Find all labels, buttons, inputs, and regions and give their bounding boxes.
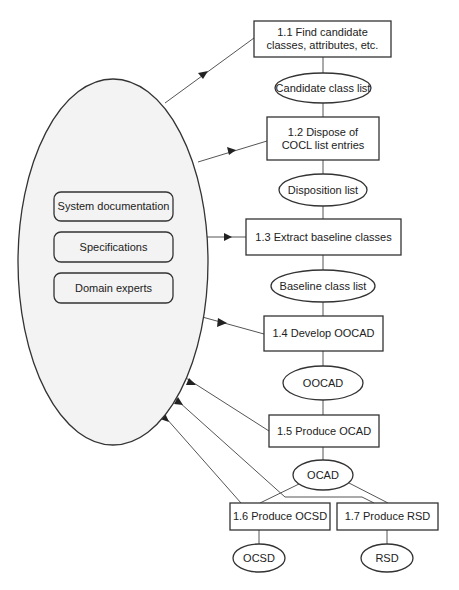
source-label-system-documentation: System documentation bbox=[54, 192, 173, 221]
process-label-1-2: 1.2 Dispose of COCL list entries bbox=[267, 117, 379, 160]
process-label-1-4: 1.4 Develop OOCAD bbox=[264, 316, 383, 351]
source-label-specifications: Specifications bbox=[54, 232, 173, 262]
process-label-1-7: 1.7 Produce RSD bbox=[337, 503, 438, 530]
artifact-label-candidate-class-list: Candidate class list bbox=[275, 73, 371, 103]
process-label-1-3: 1.3 Extract baseline classes bbox=[246, 219, 401, 255]
process-label-1-6: 1.6 Produce OCSD bbox=[230, 503, 330, 530]
artifact-label-oocad: OOCAD bbox=[283, 366, 363, 400]
artifact-label-disposition-list: Disposition list bbox=[279, 174, 367, 206]
artifact-label-baseline-class-list: Baseline class list bbox=[271, 270, 375, 302]
artifact-label-ocsd: OCSD bbox=[233, 544, 285, 572]
process-label-1-1: 1.1 Find candidate classes, attributes, … bbox=[254, 21, 391, 57]
artifact-label-ocad: OCAD bbox=[293, 460, 353, 490]
source-label-domain-experts: Domain experts bbox=[54, 273, 173, 303]
artifact-label-rsd: RSD bbox=[361, 544, 413, 572]
process-label-1-5: 1.5 Produce OCAD bbox=[269, 415, 379, 447]
